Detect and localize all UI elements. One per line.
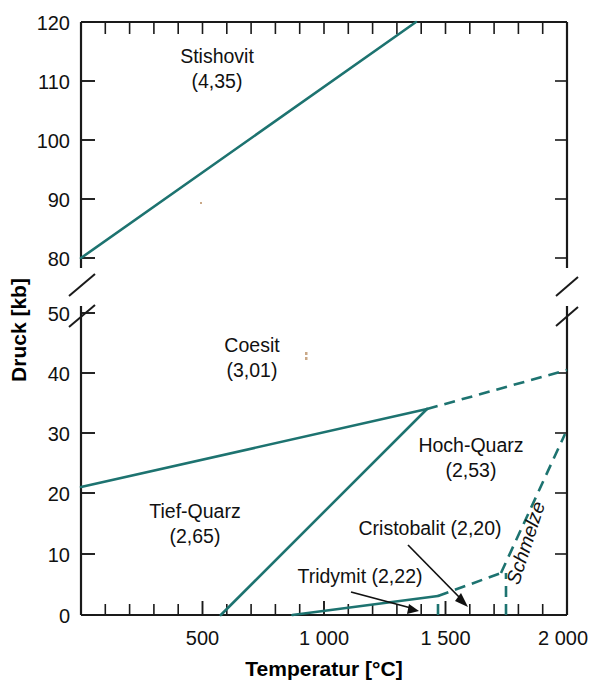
tridymit-arrow-head <box>407 604 419 614</box>
region-label-stishovit-density: (4,35) <box>192 70 243 92</box>
y-axis-title: Druck [kb] <box>7 278 30 382</box>
x-tick-label-2000: 2 000 <box>538 627 588 649</box>
phase-diagram-svg: 120 110 100 90 80 50 40 30 20 10 0 <box>0 0 600 692</box>
region-label-coesit-density: (3,01) <box>227 359 278 381</box>
y-tick-label-50: 50 <box>48 303 70 325</box>
region-label-hoch-quarz: Hoch-Quarz <box>418 434 523 456</box>
region-label-tief-quarz-density: (2,65) <box>170 525 221 547</box>
y-tick-label-0: 0 <box>59 605 70 627</box>
y-tick-labels-lower: 50 40 30 20 10 0 <box>48 303 70 627</box>
axis-frame <box>69 22 578 615</box>
y-tick-label-100: 100 <box>37 130 70 152</box>
y-tick-label-10: 10 <box>48 544 70 566</box>
y-tick-label-30: 30 <box>48 423 70 445</box>
y-tick-label-20: 20 <box>48 483 70 505</box>
y-tick-label-80: 80 <box>48 248 70 270</box>
region-labels: Stishovit (4,35) Coesit (3,01) Hoch-Quar… <box>149 45 549 587</box>
region-label-tridymit: Tridymit (2,22) <box>298 565 423 587</box>
x-tick-label-1000: 1 000 <box>299 627 349 649</box>
x-tick-labels: 500 1 000 1 500 2 000 <box>186 627 588 649</box>
region-label-cristobalit: Cristobalit (2,20) <box>358 517 501 539</box>
region-label-stishovit: Stishovit <box>180 45 254 67</box>
region-label-schmelze: Schmelze <box>502 499 549 587</box>
boundary-coesit-quarz <box>81 409 427 487</box>
axis-break-right-upper <box>556 277 578 296</box>
region-label-coesit: Coesit <box>224 334 280 356</box>
axis-break-upper-mark <box>69 274 95 296</box>
boundary-hochquarz-tridymit <box>292 596 438 615</box>
boundary-coesit-quarz-dashed <box>427 370 567 409</box>
y-tick-label-110: 110 <box>38 71 70 93</box>
x-tick-label-500: 500 <box>186 627 219 649</box>
region-label-hoch-quarz-density: (2,53) <box>446 459 497 481</box>
y-tick-label-120: 120 <box>37 12 70 34</box>
x-axis-title: Temperatur [°C] <box>245 657 402 680</box>
y-tick-labels-upper: 120 110 100 90 80 <box>37 12 70 270</box>
y-ticks-lower <box>81 313 95 615</box>
phase-diagram-figure: 120 110 100 90 80 50 40 30 20 10 0 <box>0 0 600 692</box>
y-tick-label-40: 40 <box>48 363 70 385</box>
y-ticks-upper <box>81 22 95 258</box>
x-tick-label-1500: 1 500 <box>420 627 470 649</box>
y-tick-label-90: 90 <box>48 189 70 211</box>
top-edge-ticks <box>105 22 542 34</box>
region-label-tief-quarz: Tief-Quarz <box>149 500 240 522</box>
